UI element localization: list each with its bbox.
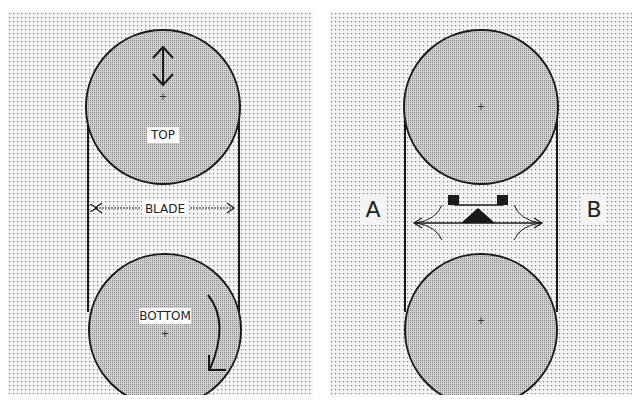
top-wheel-label: TOP (150, 128, 175, 142)
svg-text:+: + (161, 328, 169, 339)
svg-text:+: + (477, 101, 485, 112)
svg-text:+: + (159, 91, 167, 102)
bottom-wheel: + (405, 254, 557, 395)
svg-text:+: + (477, 315, 485, 326)
left-panel-wheel-diagram: + TOP BLADE BOTTOM + (8, 12, 313, 395)
bottom-wheel: BOTTOM + (89, 254, 241, 395)
right-panel-guide-diagram: + + A B (330, 12, 632, 395)
side-a-label: A (365, 197, 380, 222)
top-wheel: + (404, 30, 558, 184)
top-wheel: + TOP (86, 30, 240, 184)
blade-label: BLADE (145, 202, 185, 216)
side-b-label: B (586, 197, 601, 222)
bottom-wheel-label: BOTTOM (139, 309, 191, 323)
